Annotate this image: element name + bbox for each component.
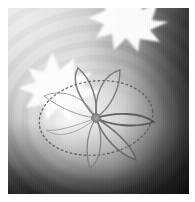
figure-frame [8, 8, 189, 194]
raster-scanline-texture [8, 8, 189, 194]
figure-page [0, 0, 195, 202]
